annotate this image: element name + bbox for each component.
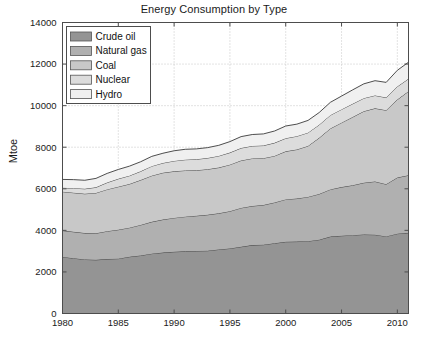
x-tick-label: 2005	[331, 317, 352, 328]
stacked-area-chart: 0200040006000800010000120001400019801985…	[0, 0, 428, 345]
y-tick-label: 10000	[30, 100, 56, 111]
chart-figure: Energy Consumption by Type Mtoe 02000400…	[0, 0, 428, 345]
x-tick-label: 1990	[164, 317, 185, 328]
y-tick-label: 14000	[30, 17, 56, 28]
legend-swatch	[71, 75, 92, 84]
legend-label: Nuclear	[96, 74, 131, 85]
y-tick-label: 8000	[35, 142, 56, 153]
x-tick-label: 2000	[275, 317, 296, 328]
x-tick-label: 1995	[219, 317, 240, 328]
x-tick-label: 1980	[52, 317, 73, 328]
y-tick-label: 2000	[35, 266, 56, 277]
legend-label: Crude oil	[96, 31, 136, 42]
y-tick-label: 12000	[30, 58, 56, 69]
x-tick-label: 1985	[108, 317, 129, 328]
legend-swatch	[71, 46, 92, 55]
legend-label: Coal	[96, 60, 117, 71]
chart-legend[interactable]: Crude oilNatural gasCoalNuclearHydro	[67, 27, 151, 104]
legend-label: Natural gas	[96, 45, 147, 56]
x-tick-label: 2010	[387, 317, 408, 328]
legend-swatch	[71, 90, 92, 99]
legend-swatch	[71, 61, 92, 70]
legend-label: Hydro	[96, 89, 123, 100]
y-tick-label: 6000	[35, 183, 56, 194]
legend-swatch	[71, 32, 92, 41]
y-tick-label: 4000	[35, 225, 56, 236]
